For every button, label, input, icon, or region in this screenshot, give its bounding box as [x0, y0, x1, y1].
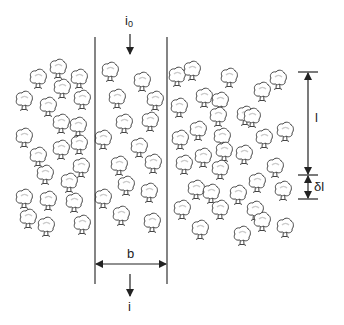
tree-icon: [174, 200, 190, 219]
tree-icon: [113, 206, 129, 225]
tree-icon: [176, 155, 192, 174]
tree-icon: [184, 61, 200, 80]
tree-icon: [73, 158, 89, 177]
tree-icon: [230, 185, 246, 204]
tree-icon: [74, 215, 90, 234]
tree-icon: [102, 62, 118, 81]
tree-icon: [212, 160, 228, 179]
tree-icon: [169, 67, 185, 86]
tree-icon: [61, 173, 77, 192]
tree-icon: [203, 184, 219, 203]
tree-icon: [53, 114, 69, 133]
tree-icon: [74, 90, 90, 109]
tree-icon: [277, 122, 293, 141]
tree-icon: [236, 145, 252, 164]
tree-icon: [134, 72, 150, 91]
incoming-flux-label: i0: [125, 14, 133, 29]
tree-icon: [30, 69, 46, 88]
tree-icon: [210, 107, 226, 126]
tree-icon: [147, 91, 163, 110]
tree-icon: [212, 200, 228, 219]
tree-icon: [40, 191, 56, 210]
tree-icon: [216, 142, 232, 161]
tree-icon: [256, 129, 272, 148]
incoming-flux-subscript: 0: [128, 19, 133, 29]
tree-icon: [249, 173, 265, 192]
strip-width-label: b: [127, 247, 134, 260]
tree-icon: [171, 98, 187, 117]
tree-icon: [172, 130, 188, 149]
tree-icon: [66, 193, 82, 212]
tree-icon: [111, 156, 127, 175]
tree-icon: [40, 97, 56, 116]
tree-icon: [141, 183, 157, 202]
tree-icon: [190, 121, 206, 140]
tree-icon: [50, 59, 66, 78]
tree-icon: [95, 189, 111, 208]
tree-icon: [277, 218, 293, 237]
tree-icon: [142, 112, 158, 131]
tree-icon: [267, 158, 283, 177]
tree-icon: [195, 148, 211, 167]
trees: [16, 59, 293, 245]
tree-icon: [54, 79, 70, 98]
tree-icon: [30, 147, 46, 166]
tree-icon: [144, 213, 160, 232]
length-label: l: [315, 111, 318, 124]
tree-icon: [37, 165, 53, 184]
tree-icon: [71, 69, 87, 88]
tree-icon: [188, 180, 204, 199]
tree-icon: [196, 88, 212, 107]
tree-icon: [234, 226, 250, 245]
tree-icon: [20, 209, 36, 228]
tree-icon: [16, 91, 32, 110]
tree-icon: [71, 135, 87, 154]
outgoing-flux-label: i: [128, 300, 131, 313]
tree-icon: [116, 114, 132, 133]
tree-icon: [38, 217, 54, 236]
tree-icon: [145, 154, 161, 173]
tree-icon: [95, 130, 111, 149]
tree-icon: [270, 70, 286, 89]
forest-strip-diagram: [0, 0, 344, 325]
tree-icon: [275, 181, 291, 200]
tree-icon: [221, 68, 237, 87]
tree-icon: [131, 138, 147, 157]
delta-length-label: δl: [314, 180, 324, 193]
tree-icon: [16, 128, 32, 147]
tree-icon: [254, 82, 270, 101]
tree-icon: [192, 220, 208, 239]
tree-icon: [70, 117, 86, 136]
tree-icon: [118, 176, 134, 195]
tree-icon: [109, 89, 125, 108]
tree-icon: [53, 140, 69, 159]
tree-icon: [254, 212, 270, 231]
tree-icon: [16, 189, 32, 208]
